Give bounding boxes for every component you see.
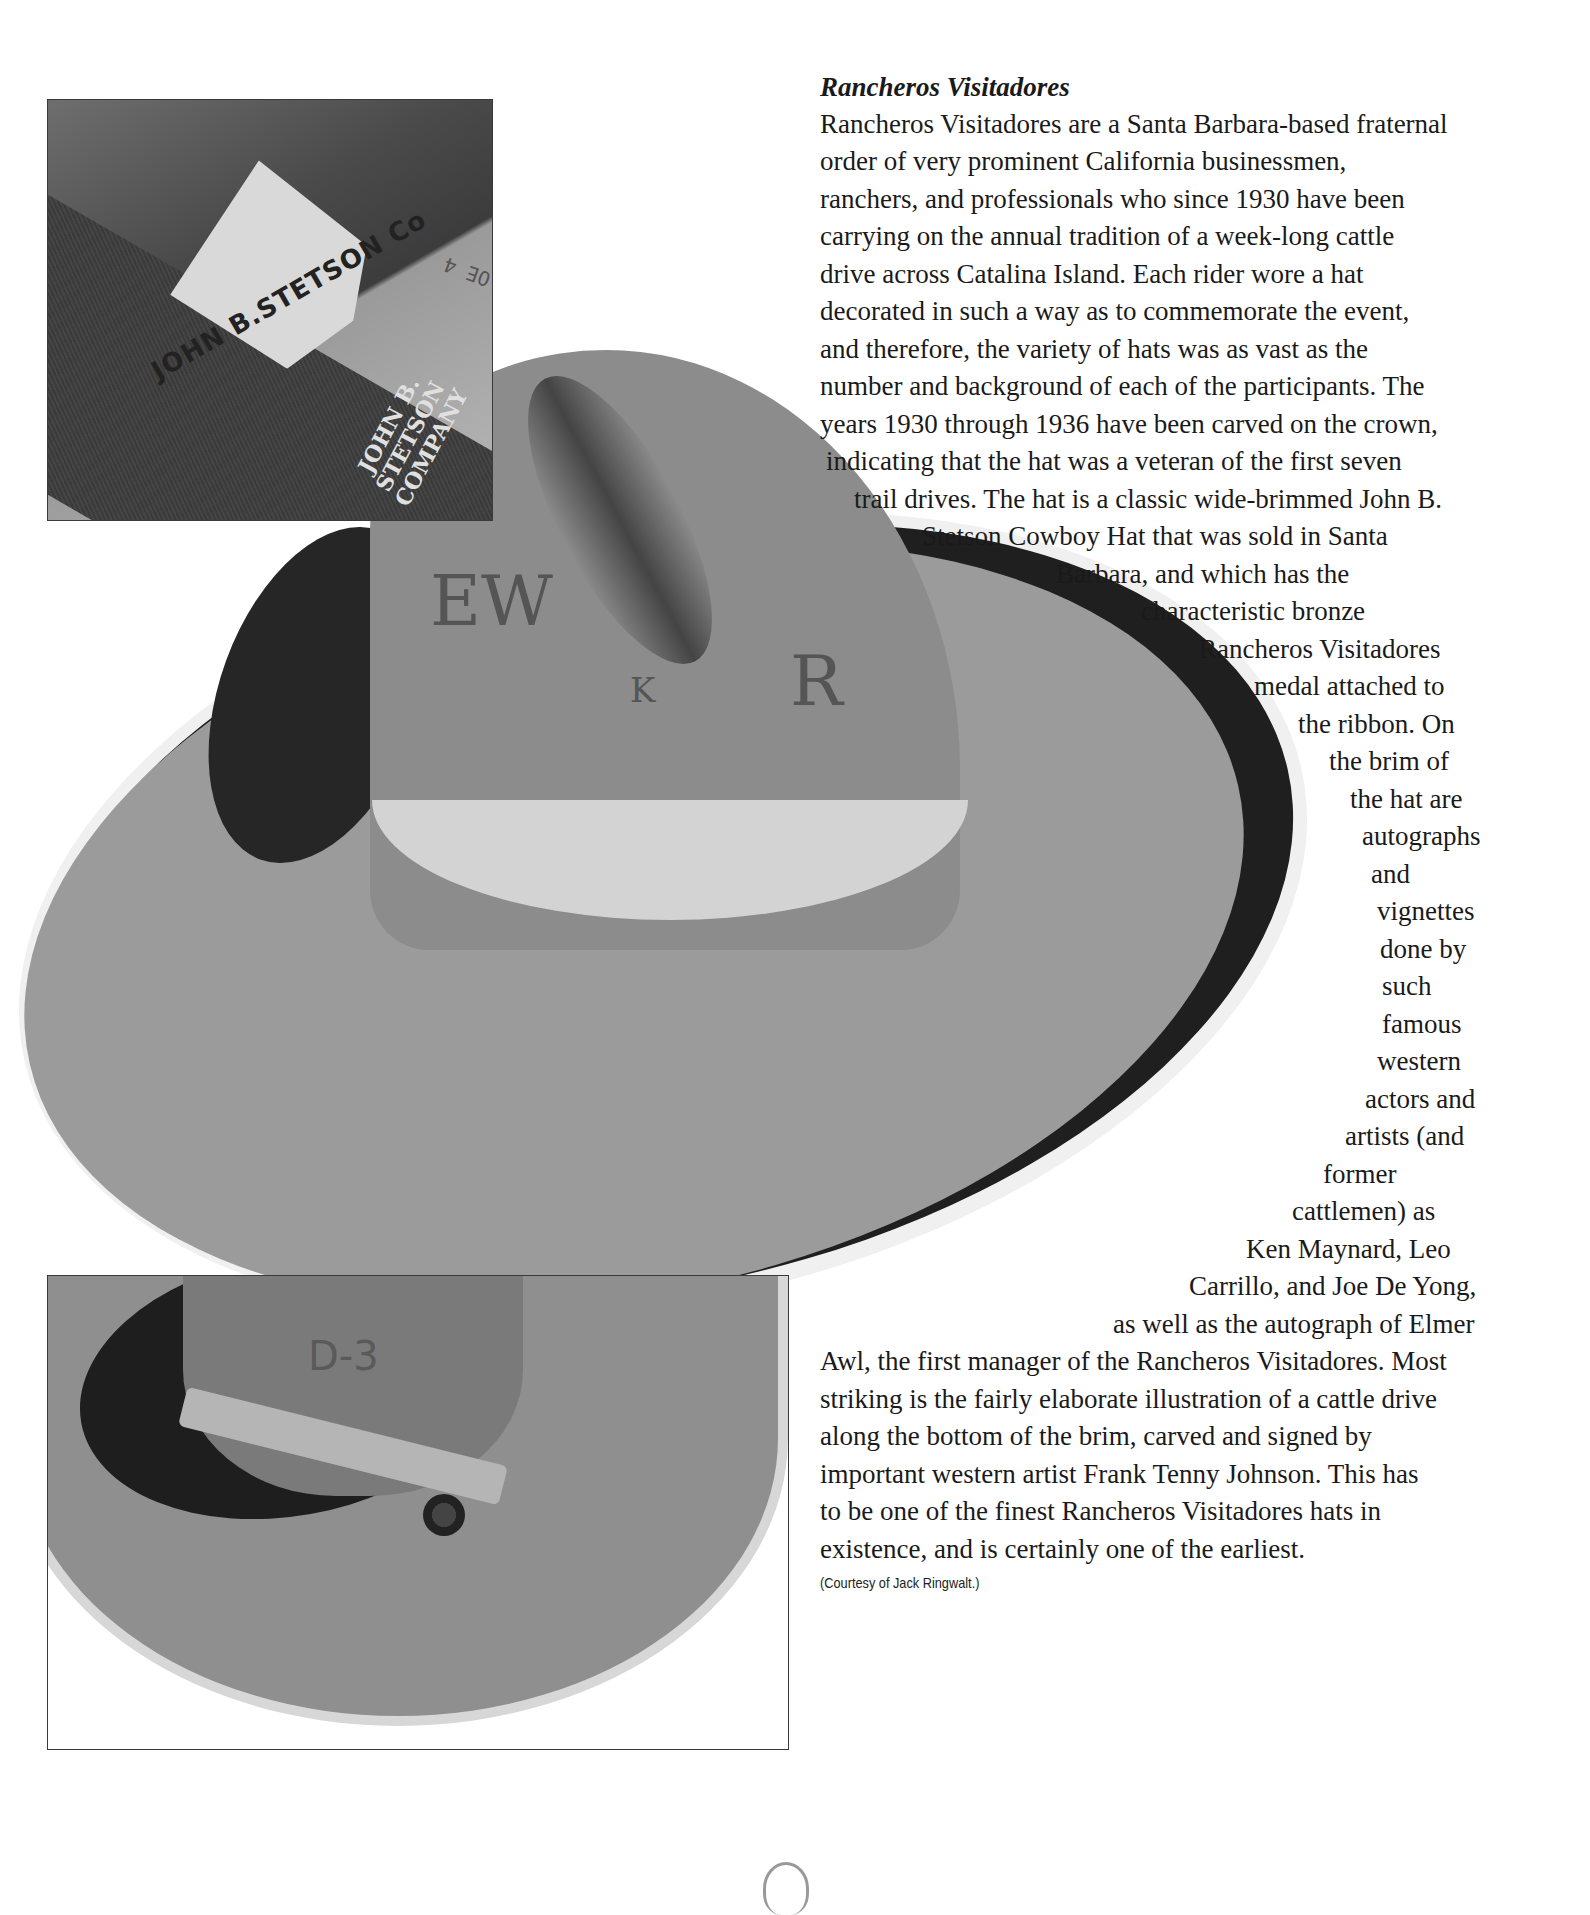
article-title: Rancheros Visitadores — [820, 72, 1070, 102]
crown-carving: K — [630, 670, 655, 710]
photo-credit: (Courtesy of Jack Ringwalt.) — [820, 1574, 979, 1591]
article-line: Rancheros Visitadores are a Santa Barbar… — [820, 109, 1448, 139]
article-line: important western artist Frank Tenny Joh… — [820, 1459, 1419, 1489]
article-line: and — [1371, 859, 1410, 889]
page-number-icon — [763, 1862, 809, 1915]
article-line: former — [1323, 1159, 1396, 1189]
article-line: autographs — [1362, 821, 1480, 851]
article-line: order of very prominent California busin… — [820, 146, 1346, 176]
crown-carving: EW — [430, 560, 553, 642]
article-line: carrying on the annual tradition of a we… — [820, 221, 1394, 251]
hat-underside-inset-photo: D-3 — [47, 1275, 789, 1750]
article-line: ranchers, and professionals who since 19… — [820, 184, 1405, 214]
article-line: artists (and — [1345, 1121, 1464, 1151]
article-line: actors and — [1365, 1084, 1475, 1114]
sweatband-inset-photo: JOHN B.STETSON Co JOHN B. STETSON COMPAN… — [47, 99, 493, 521]
article-line: done by — [1380, 934, 1466, 964]
article-line: the brim of — [1329, 746, 1449, 776]
underside-carving: D-3 — [308, 1336, 379, 1376]
article-line: existence, and is certainly one of the e… — [820, 1534, 1305, 1564]
article-line: vignettes — [1377, 896, 1474, 926]
article-line: western — [1377, 1046, 1461, 1076]
article-line: striking is the fairly elaborate illustr… — [820, 1384, 1437, 1414]
article-line: drive across Catalina Island. Each rider… — [820, 259, 1364, 289]
size-marking: OE 4 — [440, 252, 493, 291]
article-line: decorated in such a way as to commemorat… — [820, 296, 1409, 326]
article-line: the hat are — [1350, 784, 1462, 814]
article-line: along the bottom of the brim, carved and… — [820, 1421, 1372, 1451]
bronze-medal-icon — [423, 1494, 465, 1536]
crown-carving: R — [790, 640, 843, 722]
article-line: such — [1382, 971, 1432, 1001]
article-line: to be one of the finest Rancheros Visita… — [820, 1496, 1381, 1526]
article-line: Awl, the first manager of the Rancheros … — [820, 1346, 1447, 1376]
article-line: famous — [1382, 1009, 1461, 1039]
